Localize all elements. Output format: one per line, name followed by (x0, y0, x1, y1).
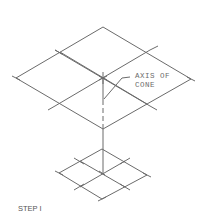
annotation-line-1: AXIS OF (135, 72, 170, 81)
step-label: STEP I (18, 204, 42, 213)
isometric-grid-drawing (0, 0, 206, 224)
diagram-canvas: AXIS OF CONE STEP I (0, 0, 206, 224)
axis-annotation: AXIS OF CONE (135, 72, 170, 90)
annotation-line-2: CONE (135, 81, 170, 90)
